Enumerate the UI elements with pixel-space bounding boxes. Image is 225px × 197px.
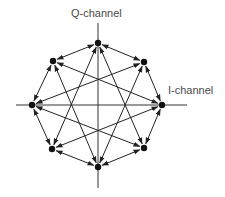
octagon-transition-arrow [56, 151, 94, 166]
i-channel-axis-label: I-channel [168, 85, 213, 96]
constellation-point-top [95, 40, 101, 46]
octagon-transition-arrow [57, 45, 94, 60]
star-transition-arrow [57, 63, 158, 104]
octagon-transition-arrow [102, 150, 140, 166]
constellation-point-left [29, 102, 35, 108]
q-channel-axis-label: Q-channel [71, 8, 122, 19]
star-transition-arrow [36, 107, 140, 147]
octagon-transition-arrow [146, 66, 161, 101]
star-transition-arrow [100, 47, 142, 144]
octagon-transition-arrow [34, 109, 50, 145]
constellation-point-upper-right [141, 59, 147, 65]
constellation-point-lower-right [141, 145, 147, 151]
star-transition-arrow [55, 65, 96, 163]
octagon-transition-arrow [102, 45, 140, 61]
octagon-transition-arrow [146, 109, 161, 144]
star-transition-arrow [100, 66, 142, 163]
constellation-point-lower-left [49, 146, 55, 152]
star-transition-arrow [36, 64, 140, 104]
star-transition-arrow [56, 107, 158, 148]
star-transition-arrow [54, 47, 96, 145]
constellation-point-right [159, 102, 165, 108]
constellation-point-upper-left [50, 58, 56, 64]
octagon-transition-arrow [34, 65, 51, 101]
constellation-diagram [0, 0, 225, 197]
constellation-point-bottom [95, 164, 101, 170]
